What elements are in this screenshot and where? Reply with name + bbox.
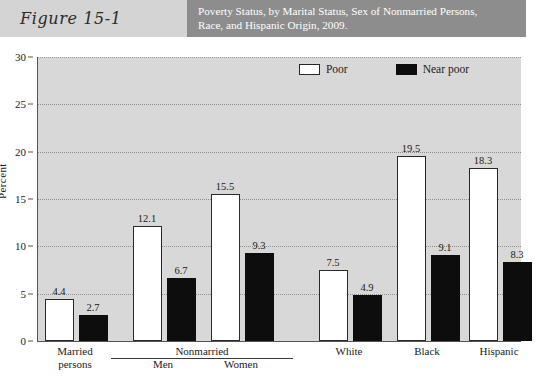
bar-near-poor-men [167,278,196,341]
bar-value-label: 8.3 [496,249,536,260]
bar-value-label: 9.3 [238,240,281,251]
bar-value-label: 9.1 [424,242,467,253]
bar-near-poor-white [353,295,382,341]
y-tick-label-30: 30 [15,51,26,63]
gridline-25 [38,104,521,105]
bar-near-poor-women [245,253,274,341]
x-axis-labels: MarriedpersonsMenWomenWhiteBlackHispanic… [37,343,520,380]
plot-area: PoorNear poor 4.42.712.16.715.59.37.54.9… [37,57,521,342]
figure-header: Figure 15-1 Poverty Status, by Marital S… [0,0,526,37]
y-tick-mark-15 [28,199,33,200]
x-axis-label-line-2: persons [25,358,125,371]
x-axis-label-line-1: Hispanic [449,345,536,358]
x-axis-group-label-nonmarried: Nonmarried [111,345,293,357]
x-axis-label-line-1: Married [25,345,125,358]
figure-title-line-2: Race, and Hispanic Origin, 2009. [198,19,526,32]
bar-near-poor-black [431,255,460,341]
figure-label-box: Figure 15-1 [0,0,187,37]
legend-item-near-poor[interactable]: Near poor [396,63,469,75]
bar-poor-black [397,156,426,341]
bar-poor-hispanic [469,168,498,341]
y-tick-mark-10 [28,246,33,247]
bar-value-label: 4.9 [346,282,389,293]
figure-title-box: Poverty Status, by Marital Status, Sex o… [187,0,526,37]
white-square-icon [299,64,320,75]
bar-value-label: 6.7 [160,265,203,276]
y-axis: 051015202530 [0,57,33,341]
y-tick-label-15: 15 [15,193,26,205]
bar-value-label: 7.5 [312,257,355,268]
legend-label: Poor [326,63,348,75]
black-square-icon [396,64,417,75]
y-tick-mark-0 [28,341,33,342]
x-axis-group-rule [111,358,293,359]
chart-legend: PoorNear poor [38,57,521,81]
figure-number-label: Figure 15-1 [0,9,122,28]
x-axis-label-line-1: Women [191,358,291,371]
bar-poor-women [211,194,240,341]
y-tick-mark-25 [28,104,33,105]
x-axis-label-hispanic: Hispanic [449,345,536,358]
y-tick-label-10: 10 [15,240,26,252]
bar-value-label: 19.5 [390,143,433,154]
bar-value-label: 4.4 [38,286,81,297]
bar-value-label: 18.3 [462,155,505,166]
x-axis-label-married: Marriedpersons [25,345,125,371]
gridline-20 [38,152,521,153]
gridline-30 [38,57,521,58]
bar-value-label: 12.1 [126,213,169,224]
y-tick-label-20: 20 [15,146,26,158]
gridline-15 [38,199,521,200]
legend-item-poor[interactable]: Poor [299,63,348,75]
y-tick-mark-5 [28,293,33,294]
x-axis-label-women: Women [191,358,291,371]
bar-near-poor-hispanic [503,262,532,341]
y-tick-label-5: 5 [21,288,27,300]
bar-near-poor-married-persons [79,315,108,341]
figure-title-line-1: Poverty Status, by Marital Status, Sex o… [198,5,526,18]
y-tick-label-25: 25 [15,98,26,110]
legend-label: Near poor [423,63,469,75]
y-tick-mark-30 [28,57,33,58]
bar-poor-men [133,226,162,341]
y-axis-title: Percent [0,163,8,199]
bar-poor-married-persons [45,299,74,341]
bar-value-label: 15.5 [204,181,247,192]
y-tick-mark-20 [28,151,33,152]
bar-value-label: 2.7 [72,302,115,313]
bar-poor-white [319,270,348,341]
